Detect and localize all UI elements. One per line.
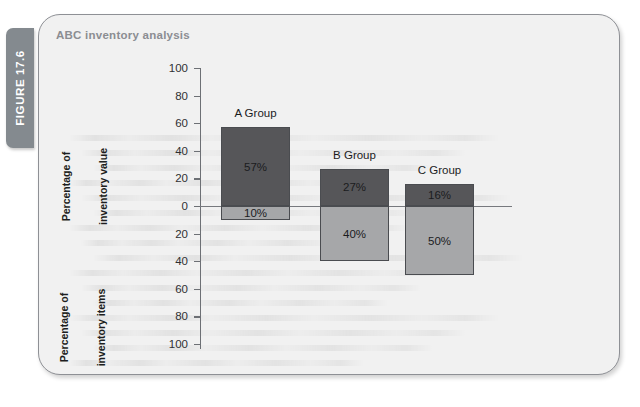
y-axis-tick [194, 68, 200, 69]
bar-value-label-inventory-value: 16% [405, 189, 474, 201]
y-axis-line [200, 68, 201, 349]
y-axis-tick-label: 0 [158, 200, 188, 212]
bar-group-label: C Group [390, 164, 489, 176]
bar-value-label-inventory-value: 57% [221, 161, 290, 173]
y-axis-tick [194, 316, 200, 317]
y-axis-tick-label: 40 [158, 255, 188, 267]
bar-group-label: B Group [305, 149, 404, 161]
y-axis-tick-labels: 10080604020020406080100 [158, 0, 188, 407]
y-axis-tick [194, 261, 200, 262]
y-axis-tick-label: 100 [158, 62, 188, 74]
y-axis-tick-label: 80 [158, 310, 188, 322]
y-axis-label-lower-line1: Percentage of [57, 238, 69, 407]
y-axis-tick [194, 206, 200, 207]
y-axis-tick [194, 289, 200, 290]
bar-value-label-inventory-items: 10% [221, 207, 290, 219]
bar-group-label: A Group [206, 107, 305, 119]
y-axis-tick-label: 20 [158, 172, 188, 184]
y-axis-tick [194, 151, 200, 152]
y-axis-tick-label: 80 [158, 90, 188, 102]
y-axis-tick [194, 96, 200, 97]
bar-value-label-inventory-value: 27% [320, 181, 389, 193]
y-axis-tick [194, 178, 200, 179]
y-axis-tick-label: 100 [158, 338, 188, 350]
bar-value-label-inventory-items: 50% [405, 235, 474, 247]
chart-plot-area: 10080604020020406080100 Percentage of in… [0, 0, 640, 407]
y-axis-tick [194, 344, 200, 345]
bar-value-label-inventory-items: 40% [320, 228, 389, 240]
y-axis-tick [194, 123, 200, 124]
y-axis-tick [194, 234, 200, 235]
y-axis-tick-label: 60 [158, 117, 188, 129]
y-axis-tick-label: 20 [158, 228, 188, 240]
y-axis-tick-label: 40 [158, 145, 188, 157]
y-axis-label-lower: Percentage of inventory items [33, 238, 132, 407]
y-axis-tick-label: 60 [158, 283, 188, 295]
y-axis-label-lower-line2: inventory items [94, 238, 106, 407]
